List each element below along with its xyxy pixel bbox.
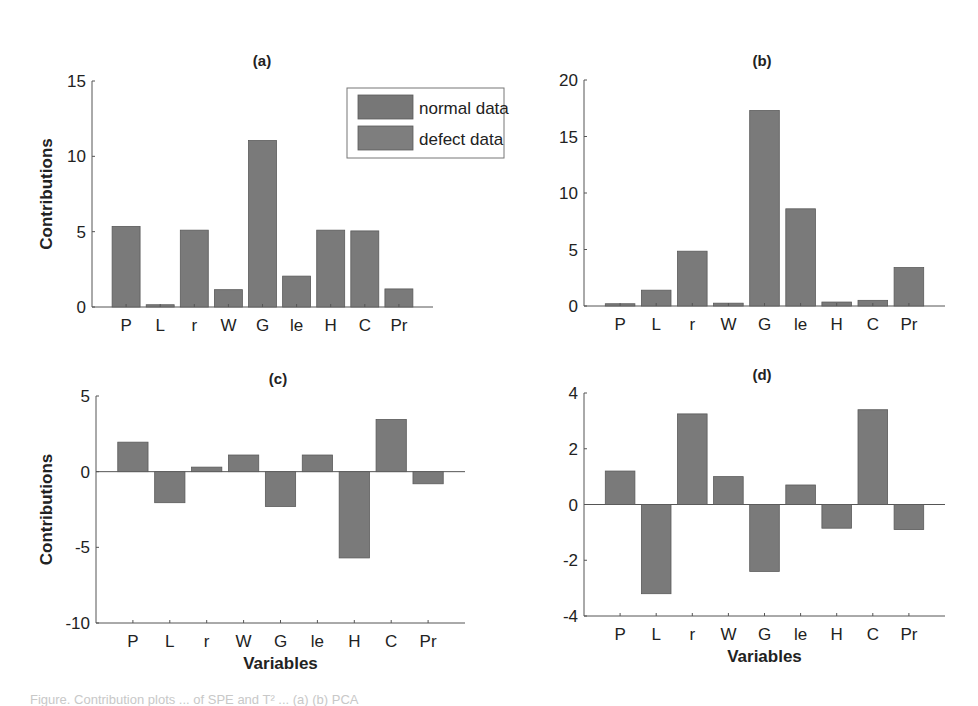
x-tick-label: G — [274, 632, 287, 651]
x-tick-label: C — [385, 632, 397, 651]
x-tick-label: Pr — [900, 315, 917, 334]
x-tick-label: C — [867, 625, 879, 644]
y-tick-label: 15 — [67, 72, 86, 91]
bar-c — [858, 410, 888, 505]
y-tick-label: -2 — [563, 551, 578, 570]
bar-p — [118, 442, 148, 472]
x-tick-label: P — [120, 316, 131, 335]
subplot-b: (b)05101520PLrWGleHCPr — [559, 52, 945, 334]
x-tick-label: W — [220, 316, 236, 335]
x-tick-label: P — [614, 315, 625, 334]
x-axis-title: Variables — [727, 647, 802, 666]
y-tick-label: 0 — [569, 297, 578, 316]
x-tick-label: L — [165, 632, 174, 651]
legend-label-defect: defect data — [419, 130, 504, 149]
x-tick-label: le — [311, 632, 324, 651]
x-tick-label: W — [720, 625, 736, 644]
bar-le — [786, 485, 816, 505]
bar-h — [317, 230, 345, 307]
x-axis-title: Variables — [243, 654, 318, 673]
figure-canvas: (a)051015PLrWGleHCPrContributions (b)051… — [0, 0, 978, 706]
y-axis-title: Contributions — [37, 138, 56, 249]
x-tick-label: le — [794, 625, 807, 644]
x-tick-label: le — [794, 315, 807, 334]
bar-r — [180, 230, 208, 307]
subplot-c: (c)-10-505PLrWGleHCPrContributionsVariab… — [37, 370, 465, 673]
legend: normal data defect data — [347, 88, 509, 158]
y-tick-label: 5 — [77, 223, 86, 242]
bar-r — [677, 251, 707, 306]
y-axis-title: Contributions — [37, 454, 56, 565]
x-tick-label: P — [127, 632, 138, 651]
y-tick-label: 20 — [559, 71, 578, 90]
bar-g — [249, 141, 277, 307]
y-tick-label: 15 — [559, 128, 578, 147]
legend-label-normal: normal data — [419, 99, 509, 118]
y-tick-label: 2 — [569, 440, 578, 459]
y-tick-label: -4 — [563, 607, 578, 626]
bar-g — [750, 111, 780, 306]
x-tick-label: r — [689, 625, 695, 644]
y-tick-label: 0 — [77, 298, 86, 317]
y-tick-label: 4 — [569, 384, 578, 403]
x-tick-label: G — [256, 316, 269, 335]
x-tick-label: G — [758, 625, 771, 644]
subplot-title: (a) — [253, 52, 271, 69]
bar-pr — [413, 472, 443, 484]
x-tick-label: H — [831, 625, 843, 644]
bar-p — [605, 471, 635, 504]
bar-h — [339, 472, 369, 558]
x-tick-label: r — [689, 315, 695, 334]
y-tick-label: 10 — [559, 184, 578, 203]
bar-le — [302, 455, 332, 472]
y-tick-label: 5 — [569, 241, 578, 260]
bar-g — [750, 505, 780, 572]
bar-pr — [894, 268, 924, 306]
bar-w — [228, 455, 258, 472]
x-tick-label: r — [204, 632, 210, 651]
y-tick-label: 0 — [569, 496, 578, 515]
legend-swatch-normal — [358, 95, 413, 119]
y-tick-label: 0 — [81, 463, 90, 482]
x-tick-label: Pr — [900, 625, 917, 644]
x-tick-label: L — [155, 316, 164, 335]
x-tick-label: L — [651, 625, 660, 644]
x-tick-label: W — [236, 632, 252, 651]
bar-le — [283, 276, 311, 307]
bar-c — [351, 231, 379, 307]
bar-p — [112, 226, 140, 307]
x-tick-label: C — [867, 315, 879, 334]
y-tick-label: 10 — [67, 147, 86, 166]
x-tick-label: H — [831, 315, 843, 334]
x-tick-label: L — [651, 315, 660, 334]
bar-g — [265, 472, 295, 507]
subplot-d: (d)-4-2024PLrWGleHCPrVariables — [563, 366, 945, 666]
x-tick-label: C — [359, 316, 371, 335]
bar-r — [677, 414, 707, 505]
subplot-title: (c) — [269, 370, 287, 387]
bar-le — [786, 209, 816, 306]
figure-caption: Figure. Contribution plots ... of SPE an… — [30, 692, 359, 706]
x-tick-label: H — [325, 316, 337, 335]
x-tick-label: le — [290, 316, 303, 335]
x-tick-label: H — [348, 632, 360, 651]
x-tick-label: G — [758, 315, 771, 334]
bar-w — [714, 477, 744, 505]
x-tick-label: r — [191, 316, 197, 335]
subplot-title: (d) — [752, 366, 771, 383]
y-tick-label: -10 — [65, 614, 90, 633]
bar-l — [155, 472, 185, 503]
bar-l — [641, 505, 671, 594]
bar-pr — [894, 505, 924, 530]
bar-r — [192, 467, 222, 472]
y-tick-label: 5 — [81, 387, 90, 406]
x-tick-label: Pr — [420, 632, 437, 651]
bar-c — [376, 419, 406, 471]
x-tick-label: P — [614, 625, 625, 644]
y-tick-label: -5 — [75, 538, 90, 557]
legend-swatch-defect — [358, 126, 413, 150]
x-tick-label: W — [720, 315, 736, 334]
x-tick-label: Pr — [390, 316, 407, 335]
subplot-title: (b) — [752, 52, 771, 69]
bar-h — [822, 505, 852, 529]
